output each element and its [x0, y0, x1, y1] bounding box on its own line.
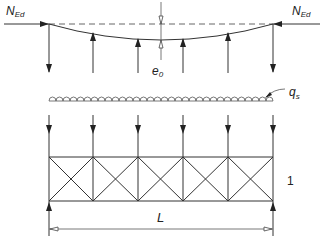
- arrowhead-left-icon: [273, 21, 282, 27]
- arrowhead-right-icon: [40, 21, 49, 27]
- bracing-diagram: NEd NEd e0 qs: [0, 0, 326, 244]
- bracing-system-ref-label: 1: [287, 174, 294, 188]
- arrow-down-icon: [180, 125, 186, 134]
- arrow-down-icon: [270, 125, 276, 134]
- arrow-down-icon: [90, 125, 96, 134]
- truss-load-arrows: [46, 115, 276, 157]
- distributed-load-scallops: [49, 97, 273, 101]
- arrow-down-icon: [135, 125, 141, 134]
- arrow-down-icon: [46, 125, 52, 134]
- stabilizing-load-label: qs: [289, 85, 300, 101]
- initial-bow-label: e0: [152, 64, 164, 79]
- dimension-arrow-right-icon: [264, 227, 272, 231]
- arrow-down-icon: [225, 125, 231, 134]
- dimension-arrow-down-icon: [159, 16, 163, 24]
- arrow-down-icon: [270, 64, 276, 73]
- arrow-up-icon: [225, 32, 231, 41]
- arrow-down-icon: [46, 64, 52, 73]
- span-label: L: [157, 210, 164, 225]
- support-reaction-right-icon: [270, 202, 276, 211]
- support-reaction-left-icon: [46, 202, 52, 211]
- bowed-member-group: [4, 2, 320, 73]
- dimension-arrow-left-icon: [50, 227, 58, 231]
- dimension-arrow-up-icon: [159, 40, 163, 48]
- distributed-load-group: [49, 89, 285, 101]
- truss-diagonals: [49, 157, 273, 201]
- axial-force-left-label: NEd: [6, 4, 25, 19]
- axial-force-right-label: NEd: [292, 4, 311, 19]
